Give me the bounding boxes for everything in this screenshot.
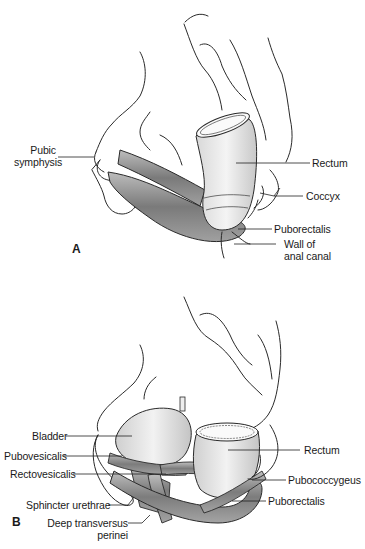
label-line: Pubic <box>14 144 56 156</box>
panel-b: Bladder Pubovesicalis Rectovesicalis Sph… <box>0 275 365 549</box>
label-line: anal canal <box>284 250 331 262</box>
label-deep-transversus-perinei: Deep transversus perinei <box>46 517 128 541</box>
label-line: perinei <box>46 529 128 541</box>
panel-a: Pubic symphysis Rectum Coccyx Puborectal… <box>0 0 365 275</box>
label-wall-of-anal-canal: Wall of anal canal <box>284 238 331 262</box>
panel-letter-b: B <box>12 515 21 529</box>
label-puborectalis-a: Puborectalis <box>274 223 331 235</box>
label-bladder: Bladder <box>32 430 68 442</box>
label-puborectalis-b: Puborectalis <box>268 495 325 507</box>
label-pubococcygeus: Pubococcygeus <box>288 474 361 486</box>
label-pubic-symphysis: Pubic symphysis <box>14 144 56 168</box>
label-rectum-a: Rectum <box>312 157 348 169</box>
panel-letter-a: A <box>72 242 81 256</box>
label-rectovesicalis: Rectovesicalis <box>10 468 76 480</box>
label-rectum-b: Rectum <box>304 444 340 456</box>
label-sphincter-urethrae: Sphincter urethrae <box>26 499 111 511</box>
label-coccyx: Coccyx <box>306 190 340 202</box>
label-line: Wall of <box>284 238 331 250</box>
label-line: Deep transversus <box>46 517 128 529</box>
label-line: symphysis <box>14 156 56 168</box>
label-pubovesicalis: Pubovesicalis <box>4 450 67 462</box>
